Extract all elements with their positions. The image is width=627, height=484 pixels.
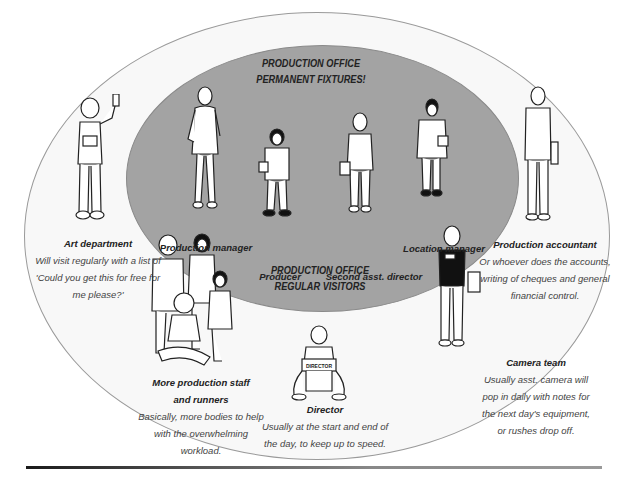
second-asst-director-figure <box>338 112 382 214</box>
art-department-figure <box>66 94 126 224</box>
producer-figure <box>255 128 299 218</box>
role-title: Art department <box>28 235 168 252</box>
person-icon <box>338 112 382 214</box>
location-manager-figure <box>410 98 454 198</box>
production-accountant-figure <box>518 86 562 224</box>
role-description: with the overwhelming <box>136 425 266 442</box>
person-icon <box>518 86 562 224</box>
role-description: Or whoever does the accounts, <box>470 253 620 270</box>
role-description: writing of cheques and general <box>470 270 620 287</box>
person-icon <box>66 94 126 224</box>
role-description: Will visit regularly with a list of <box>28 252 168 269</box>
director-label: Director Usually at the start and end of… <box>260 401 390 452</box>
heading-line: PERMANENT FIXTURES! <box>256 74 365 85</box>
person-icon: DIRECTOR <box>284 325 354 401</box>
role-description: workload. <box>136 442 266 459</box>
person-icon <box>180 84 230 214</box>
role-title: Second asst. director <box>314 268 434 285</box>
producer-label: Producer <box>245 268 315 285</box>
permanent-fixtures-heading: PRODUCTION OFFICE PERMANENT FIXTURES! <box>242 56 380 88</box>
heading-line: PRODUCTION OFFICE <box>262 58 360 69</box>
role-description: pop in daily with notes for <box>478 388 594 405</box>
role-description: Usually at the start and end of <box>260 418 390 435</box>
role-description: the next day's equipment, <box>478 405 594 422</box>
director-figure: DIRECTOR <box>284 325 354 401</box>
production-accountant-label: Production accountant Or whoever does th… <box>470 236 620 304</box>
camera-team-label: Camera team Usually asst. camera will po… <box>478 354 594 439</box>
role-description: 'Could you get this for free for <box>28 269 168 286</box>
person-icon <box>255 128 299 218</box>
role-title: More production staff <box>136 374 266 391</box>
person-icon <box>410 98 454 198</box>
role-title: Producer <box>245 268 315 285</box>
second-asst-director-label: Second asst. director <box>314 268 434 285</box>
role-title: Camera team <box>478 354 594 371</box>
role-description: financial control. <box>470 287 620 304</box>
role-title: Production accountant <box>470 236 620 253</box>
art-department-label: Art department Will visit regularly with… <box>28 235 168 303</box>
role-description: the day, to keep up to speed. <box>260 435 390 452</box>
chair-label: DIRECTOR <box>306 363 332 369</box>
role-description: Usually asst. camera will <box>478 371 594 388</box>
role-title: Director <box>260 401 390 418</box>
production-manager-figure <box>180 84 230 214</box>
role-description: me please?' <box>28 286 168 303</box>
production-staff-label: More production staff and runners Basica… <box>136 374 266 459</box>
role-description: or rushes drop off. <box>478 422 594 439</box>
bottom-divider <box>26 466 602 469</box>
role-title: and runners <box>136 391 266 408</box>
role-description: Basically, more bodies to help <box>136 408 266 425</box>
